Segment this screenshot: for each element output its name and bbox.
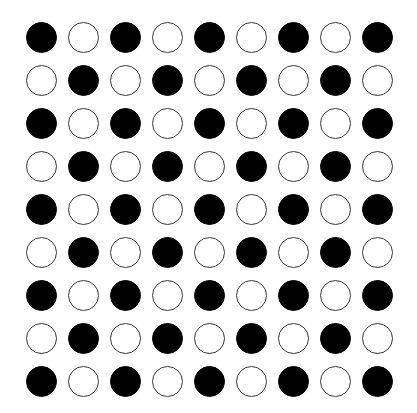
filled-circle bbox=[194, 22, 225, 53]
hollow-circle bbox=[110, 65, 141, 96]
filled-circle bbox=[194, 280, 225, 311]
filled-circle bbox=[362, 108, 393, 139]
hollow-circle bbox=[236, 194, 267, 225]
hollow-circle bbox=[278, 65, 309, 96]
hollow-circle bbox=[362, 65, 393, 96]
filled-circle bbox=[236, 151, 267, 182]
hollow-circle bbox=[278, 237, 309, 268]
filled-circle bbox=[320, 237, 351, 268]
hollow-circle bbox=[194, 65, 225, 96]
hollow-circle bbox=[68, 108, 99, 139]
filled-circle bbox=[68, 151, 99, 182]
hollow-circle bbox=[68, 194, 99, 225]
filled-circle bbox=[278, 366, 309, 397]
hollow-circle bbox=[110, 323, 141, 354]
filled-circle bbox=[362, 366, 393, 397]
hollow-circle bbox=[362, 323, 393, 354]
hollow-circle bbox=[320, 280, 351, 311]
hollow-circle bbox=[26, 237, 57, 268]
filled-circle bbox=[320, 151, 351, 182]
filled-circle bbox=[278, 22, 309, 53]
hollow-circle bbox=[26, 323, 57, 354]
filled-circle bbox=[68, 237, 99, 268]
filled-circle bbox=[194, 366, 225, 397]
hollow-circle bbox=[152, 108, 183, 139]
hollow-circle bbox=[362, 151, 393, 182]
hollow-circle bbox=[278, 323, 309, 354]
filled-circle bbox=[110, 108, 141, 139]
filled-circle bbox=[152, 151, 183, 182]
filled-circle bbox=[194, 194, 225, 225]
hollow-circle bbox=[110, 237, 141, 268]
filled-circle bbox=[362, 194, 393, 225]
filled-circle bbox=[110, 366, 141, 397]
filled-circle bbox=[320, 65, 351, 96]
hollow-circle bbox=[194, 237, 225, 268]
filled-circle bbox=[236, 65, 267, 96]
hollow-circle bbox=[110, 151, 141, 182]
filled-circle bbox=[152, 65, 183, 96]
filled-circle bbox=[26, 108, 57, 139]
filled-circle bbox=[278, 280, 309, 311]
filled-circle bbox=[152, 323, 183, 354]
hollow-circle bbox=[236, 22, 267, 53]
hollow-circle bbox=[362, 237, 393, 268]
hollow-circle bbox=[68, 280, 99, 311]
filled-circle bbox=[26, 366, 57, 397]
hollow-circle bbox=[236, 366, 267, 397]
filled-circle bbox=[110, 22, 141, 53]
filled-circle bbox=[26, 280, 57, 311]
hollow-circle bbox=[152, 366, 183, 397]
filled-circle bbox=[152, 237, 183, 268]
hollow-circle bbox=[194, 151, 225, 182]
filled-circle bbox=[110, 194, 141, 225]
filled-circle bbox=[26, 194, 57, 225]
hollow-circle bbox=[320, 22, 351, 53]
filled-circle bbox=[236, 237, 267, 268]
dot-grid bbox=[0, 0, 417, 413]
filled-circle bbox=[278, 108, 309, 139]
hollow-circle bbox=[68, 366, 99, 397]
filled-circle bbox=[194, 108, 225, 139]
filled-circle bbox=[110, 280, 141, 311]
hollow-circle bbox=[26, 65, 57, 96]
filled-circle bbox=[68, 323, 99, 354]
hollow-circle bbox=[152, 194, 183, 225]
filled-circle bbox=[362, 22, 393, 53]
filled-circle bbox=[278, 194, 309, 225]
hollow-circle bbox=[194, 323, 225, 354]
filled-circle bbox=[26, 22, 57, 53]
filled-circle bbox=[236, 323, 267, 354]
filled-circle bbox=[68, 65, 99, 96]
filled-circle bbox=[362, 280, 393, 311]
hollow-circle bbox=[26, 151, 57, 182]
hollow-circle bbox=[152, 22, 183, 53]
hollow-circle bbox=[236, 280, 267, 311]
hollow-circle bbox=[320, 366, 351, 397]
filled-circle bbox=[320, 323, 351, 354]
hollow-circle bbox=[152, 280, 183, 311]
hollow-circle bbox=[320, 194, 351, 225]
hollow-circle bbox=[236, 108, 267, 139]
hollow-circle bbox=[278, 151, 309, 182]
hollow-circle bbox=[68, 22, 99, 53]
hollow-circle bbox=[320, 108, 351, 139]
